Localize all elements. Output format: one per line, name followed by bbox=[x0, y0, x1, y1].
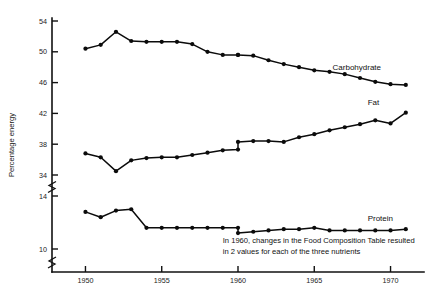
data-point bbox=[236, 231, 240, 235]
data-point bbox=[221, 53, 225, 57]
y-tick-label: 38 bbox=[39, 140, 47, 149]
data-point bbox=[373, 118, 377, 122]
data-point bbox=[221, 148, 225, 152]
data-point bbox=[114, 30, 118, 34]
data-point bbox=[343, 125, 347, 129]
data-point bbox=[144, 40, 148, 44]
data-point bbox=[312, 132, 316, 136]
data-point bbox=[327, 70, 331, 74]
x-axis-group: 19501955196019651970 bbox=[52, 266, 424, 285]
data-point bbox=[205, 151, 209, 155]
annotation-line-1: In 1960, changes in the Food Composition… bbox=[223, 236, 415, 245]
data-point bbox=[221, 226, 225, 230]
data-point bbox=[83, 47, 87, 51]
data-point bbox=[205, 226, 209, 230]
y-tick-label: 50 bbox=[39, 47, 47, 56]
series-label-group: CarbohydrateFatProtein bbox=[333, 63, 393, 223]
data-point bbox=[99, 155, 103, 159]
data-point bbox=[358, 228, 362, 232]
data-point bbox=[175, 226, 179, 230]
data-point bbox=[282, 62, 286, 66]
data-point bbox=[129, 207, 133, 211]
data-point bbox=[404, 227, 408, 231]
data-point bbox=[373, 80, 377, 84]
data-point bbox=[175, 155, 179, 159]
annotation-line-2: in 2 values for each of the three nutrie… bbox=[223, 247, 361, 256]
x-tick-label: 1960 bbox=[230, 276, 246, 285]
data-point bbox=[388, 121, 392, 125]
axis-break-mark bbox=[48, 182, 56, 193]
y-tick-label: 46 bbox=[39, 78, 47, 87]
data-point bbox=[388, 82, 392, 86]
data-point bbox=[236, 226, 240, 230]
data-point bbox=[251, 230, 255, 234]
data-point bbox=[282, 227, 286, 231]
data-point bbox=[266, 58, 270, 62]
chart-container: 1014343842465054 19501955196019651970 Pe… bbox=[0, 0, 432, 302]
y-axis-group: 1014343842465054 bbox=[39, 17, 58, 272]
data-point bbox=[388, 228, 392, 232]
data-point bbox=[343, 72, 347, 76]
data-point bbox=[297, 135, 301, 139]
data-point bbox=[160, 155, 164, 159]
data-point bbox=[251, 139, 255, 143]
series-label-carbohydrate: Carbohydrate bbox=[333, 63, 382, 72]
data-point bbox=[327, 228, 331, 232]
data-point bbox=[266, 139, 270, 143]
series-label-fat: Fat bbox=[368, 98, 380, 107]
x-tick-label: 1970 bbox=[383, 276, 399, 285]
data-point bbox=[114, 208, 118, 212]
data-point bbox=[236, 147, 240, 151]
series-group bbox=[83, 30, 408, 236]
y-tick-group: 1014343842465054 bbox=[39, 17, 58, 254]
data-point bbox=[404, 111, 408, 115]
data-point bbox=[99, 215, 103, 219]
data-point bbox=[129, 39, 133, 43]
data-point bbox=[205, 50, 209, 54]
data-point bbox=[312, 226, 316, 230]
data-point bbox=[144, 226, 148, 230]
data-point bbox=[373, 228, 377, 232]
data-point bbox=[190, 42, 194, 46]
data-point bbox=[160, 226, 164, 230]
series-line-fat bbox=[85, 113, 405, 172]
y-tick-label: 10 bbox=[39, 245, 47, 254]
series-line-protein bbox=[85, 209, 405, 233]
y-tick-label: 54 bbox=[39, 17, 47, 26]
line-chart: 1014343842465054 19501955196019651970 Pe… bbox=[0, 0, 432, 302]
data-point bbox=[236, 53, 240, 57]
data-point bbox=[297, 227, 301, 231]
x-tick-label: 1965 bbox=[306, 276, 322, 285]
data-point bbox=[327, 128, 331, 132]
x-tick-label: 1950 bbox=[77, 276, 93, 285]
y-tick-label: 14 bbox=[39, 192, 47, 201]
data-point bbox=[99, 43, 103, 47]
y-tick-label: 34 bbox=[39, 171, 47, 180]
data-point bbox=[190, 226, 194, 230]
data-point bbox=[266, 228, 270, 232]
data-point bbox=[83, 210, 87, 214]
annotation-group: In 1960, changes in the Food Composition… bbox=[223, 236, 415, 256]
x-tick-label: 1955 bbox=[154, 276, 170, 285]
y-tick-label: 42 bbox=[39, 109, 47, 118]
data-point bbox=[114, 169, 118, 173]
data-point bbox=[144, 156, 148, 160]
data-point bbox=[312, 68, 316, 72]
data-point bbox=[358, 122, 362, 126]
axis-break-mark bbox=[48, 257, 56, 268]
data-point bbox=[251, 54, 255, 58]
y-axis-title: Percentage energy bbox=[7, 113, 16, 177]
data-point bbox=[190, 153, 194, 157]
series-line-carbohydrate bbox=[85, 32, 405, 85]
series-label-protein: Protein bbox=[368, 214, 393, 223]
data-point bbox=[282, 140, 286, 144]
data-point bbox=[175, 40, 179, 44]
data-point bbox=[343, 228, 347, 232]
data-point bbox=[404, 83, 408, 87]
data-point bbox=[358, 76, 362, 80]
data-point bbox=[83, 151, 87, 155]
data-point bbox=[297, 65, 301, 69]
x-tick-group: 19501955196019651970 bbox=[77, 266, 398, 285]
data-point bbox=[160, 40, 164, 44]
data-point bbox=[129, 158, 133, 162]
